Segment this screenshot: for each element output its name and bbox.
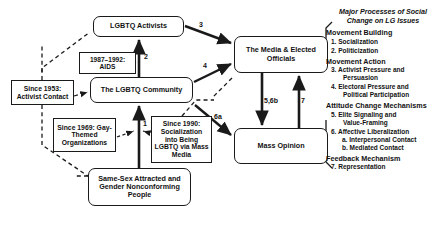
edge-label-4: 4 [203, 62, 207, 69]
node-mass-opinion[interactable]: Mass Opinion [234, 128, 328, 164]
node-label: Since 1969: Gay-Themed Organizations [54, 124, 115, 147]
dashed-contact-to-community [74, 92, 88, 96]
node-same-sex-attracted-people[interactable]: Same-Sex Attracted and Gender Nonconform… [88, 168, 191, 206]
legend-section-heading: Feedback Mechanism [326, 154, 440, 163]
legend-subitem: b. Mediated Contact [326, 144, 440, 152]
node-label: 1987–1992: AIDS [80, 56, 135, 71]
node-label: The LGBTQ Community [99, 86, 184, 94]
node-aids-1987-1992[interactable]: 1987–1992: AIDS [79, 52, 136, 74]
legend-item: 4. Electoral Pressure and [326, 83, 440, 91]
legend-item: 6. Affective Liberalization [326, 128, 440, 136]
edge-4-community-to-media [194, 64, 231, 82]
node-media-elected-officials[interactable]: The Media & Elected Officials [234, 36, 328, 73]
node-label: Since 1953: Activist Contact [12, 85, 73, 100]
node-label: LGBTQ Activists [108, 22, 169, 30]
legend-item: 2. Politicization [326, 47, 440, 55]
legend-item: 7. Representation [326, 163, 440, 171]
node-since-1953-activist-contact[interactable]: Since 1953: Activist Contact [11, 80, 74, 105]
node-label: Since 1990: Socialization into Being LGB… [152, 120, 211, 158]
legend-item-continuation: Value-Framing [326, 119, 440, 127]
legend-title: Major Processes of Social Change on LG I… [326, 8, 440, 26]
legend-section-heading: Attitude Change Mechanisms [326, 101, 440, 110]
edge-3-activists-to-media [185, 26, 231, 43]
node-lgbtq-community[interactable]: The LGBTQ Community [90, 77, 193, 103]
node-since-1990-mass-media-socialization[interactable]: Since 1990: Socialization into Being LGB… [151, 116, 212, 163]
edge-label-2: 2 [144, 53, 148, 60]
dashed-orgs-to-edge1 [117, 131, 134, 137]
edge-label-3: 3 [199, 21, 203, 28]
legend: Major Processes of Social Change on LG I… [326, 8, 440, 172]
legend-sections: Movement Building1. Socialization2. Poli… [326, 28, 440, 171]
legend-title-line2: Change on LG Issues [326, 17, 440, 26]
edge-label-5-6b: 5,6b [264, 97, 278, 104]
legend-title-line1: Major Processes of Social [326, 8, 440, 17]
legend-item-continuation: Political Participation [326, 91, 440, 99]
dashed-media-to-1990 [212, 78, 232, 98]
legend-section-heading: Movement Action [326, 57, 440, 66]
legend-subitem: a. Interpersonal Contact [326, 136, 440, 144]
edge-label-1: 1 [143, 120, 147, 127]
node-label: Mass Opinion [255, 142, 306, 150]
dashed-media1990-to-edge1 [143, 131, 150, 133]
node-lgbtq-activists[interactable]: LGBTQ Activists [93, 16, 184, 37]
node-label: Same-Sex Attracted and Gender Nonconform… [89, 175, 190, 199]
legend-item: 3. Activist Pressure and [326, 66, 440, 74]
edge-label-6a: 6a [214, 113, 222, 120]
edge-label-7: 7 [301, 97, 305, 104]
node-since-1969-gay-themed-organizations[interactable]: Since 1969: Gay-Themed Organizations [53, 118, 116, 152]
legend-item: 5. Elite Signaling and [326, 111, 440, 119]
legend-item: 1. Socialization [326, 38, 440, 46]
legend-section-heading: Movement Building [326, 28, 440, 37]
legend-item-continuation: Persuasion [326, 74, 440, 82]
node-label: The Media & Elected Officials [235, 46, 327, 62]
